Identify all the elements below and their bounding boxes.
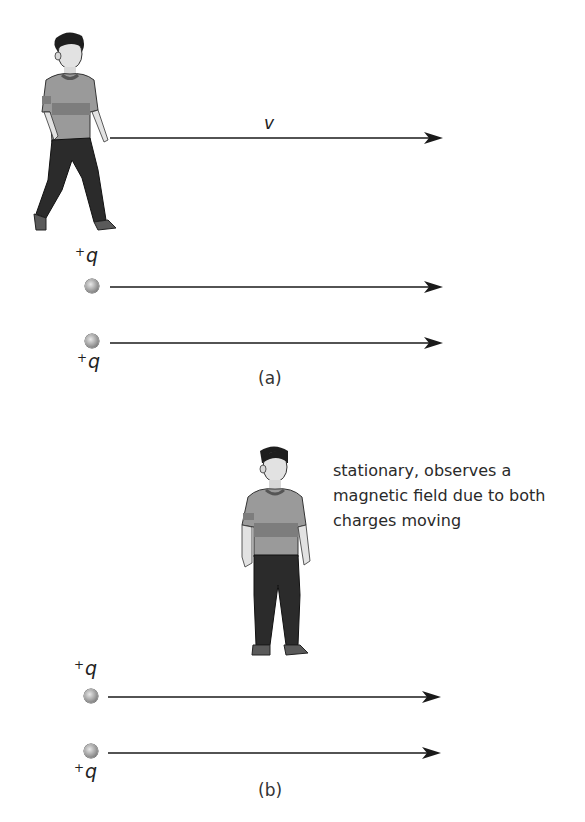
charge-velocity-arrow	[110, 279, 450, 295]
charge-sphere	[85, 334, 99, 348]
panel-b: stationary, observes a magnetic field du…	[0, 400, 585, 822]
panel-caption-b: (b)	[258, 780, 282, 800]
panel-a: v +q +q (a)	[0, 0, 585, 400]
observer-note: stationary, observes a magnetic field du…	[333, 458, 583, 533]
standing-observer-figure	[240, 445, 312, 660]
charge-label-top: +q	[75, 246, 98, 265]
charge-velocity-arrow	[110, 335, 450, 351]
charge-velocity-arrow	[108, 745, 448, 761]
charge-sphere	[85, 279, 99, 293]
charge-label-bottom: +q	[74, 762, 97, 781]
velocity-label: v	[264, 113, 274, 133]
charge-sphere	[84, 689, 98, 703]
velocity-arrow	[110, 130, 450, 146]
charge-velocity-arrow	[108, 689, 448, 705]
charge-sphere	[84, 744, 98, 758]
walking-observer-figure	[28, 30, 123, 235]
panel-caption-a: (a)	[258, 368, 282, 388]
charge-label-bottom: +q	[77, 352, 100, 371]
charge-label-top: +q	[74, 659, 97, 678]
